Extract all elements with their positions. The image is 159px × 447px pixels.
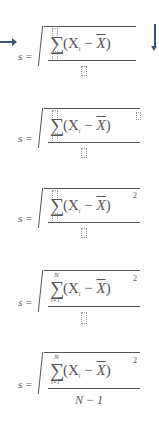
arrow-right-icon [0, 41, 14, 43]
denominator-placeholder [81, 148, 87, 158]
formula-step-5: s = N ∑ i=1 (Xi − X) 2 N − 1 [18, 348, 128, 410]
lhs: s = [18, 132, 32, 144]
exponent: 2 [133, 191, 137, 200]
numerator-expression: (Xi − X) [63, 281, 111, 297]
lhs: s = [18, 212, 32, 224]
exponent: 2 [133, 274, 137, 283]
fraction-bar [48, 388, 140, 389]
radical-sign [38, 352, 47, 394]
formula-step-2: s = ∑ (Xi − X) [18, 104, 128, 166]
numerator-expression: (Xi − X) [63, 363, 111, 379]
radical-sign [38, 270, 47, 312]
formula-step-4: s = N ∑ i=1 (Xi − X) 2 [18, 266, 128, 328]
arrow-down-icon [154, 24, 156, 47]
fraction-bar [48, 306, 140, 307]
denominator-placeholder [81, 312, 87, 324]
lhs: s = [18, 378, 32, 390]
lhs: s = [18, 50, 32, 62]
formula-step-1: s = ∑ (Xi − X) [18, 22, 128, 84]
radical-vinculum [44, 26, 136, 27]
fraction-bar [48, 142, 140, 143]
denominator-placeholder [81, 66, 87, 76]
denominator: N − 1 [75, 393, 103, 408]
power-placeholder [136, 112, 141, 120]
radical-vinculum [44, 108, 140, 109]
lhs: s = [18, 296, 32, 308]
lower-limit: i=1 [51, 297, 60, 303]
numerator-expression: (Xi − X) [63, 198, 111, 214]
formula-step-3: s = ∑ (Xi − X) 2 [18, 184, 128, 246]
exponent: 2 [133, 356, 137, 365]
numerator-expression: (Xi − X) [63, 118, 111, 134]
lower-limit: i=1 [51, 379, 60, 385]
fraction-bar [48, 60, 136, 61]
radical-sign [38, 188, 47, 228]
fraction-bar [48, 222, 140, 223]
radical-sign [38, 26, 47, 66]
radical-vinculum [44, 188, 140, 189]
numerator-expression: (Xi − X) [63, 36, 111, 52]
denominator-placeholder [81, 228, 87, 238]
radical-sign [38, 108, 47, 148]
